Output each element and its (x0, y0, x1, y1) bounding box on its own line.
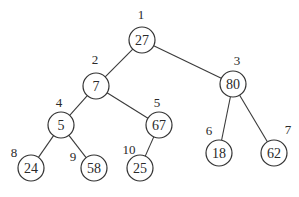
node-value: 80 (226, 77, 240, 92)
tree-edge (154, 46, 222, 79)
tree-edge (70, 96, 88, 116)
node-index-label: 9 (70, 149, 77, 164)
node-value: 18 (212, 146, 226, 161)
tree-node: 271 (129, 7, 155, 53)
tree-edge (38, 136, 53, 158)
tree-edge (107, 93, 148, 118)
node-index-label: 5 (154, 95, 161, 110)
node-index-label: 8 (11, 145, 18, 160)
node-value: 5 (58, 118, 65, 133)
node-index-label: 2 (92, 52, 99, 67)
node-index-label: 1 (138, 7, 145, 22)
node-index-label: 3 (234, 53, 241, 68)
node-value: 27 (135, 33, 149, 48)
node-value: 58 (87, 161, 101, 176)
node-index-label: 6 (206, 123, 213, 138)
tree-node: 589 (70, 149, 107, 181)
node-value: 7 (93, 79, 100, 94)
node-index-label: 4 (56, 95, 63, 110)
tree-edge (222, 97, 231, 141)
tree-node: 803 (220, 53, 246, 97)
tree-nodes: 27172803546751866272485892510 (11, 7, 292, 181)
tree-node: 186 (206, 123, 232, 166)
tree-node: 627 (261, 122, 292, 166)
tree-node: 72 (83, 52, 109, 99)
node-index-label: 10 (123, 142, 136, 157)
node-index-label: 7 (285, 122, 292, 137)
binary-tree-diagram: 27172803546751866272485892510 (0, 0, 299, 197)
node-value: 67 (152, 118, 166, 133)
tree-node: 54 (48, 95, 74, 138)
tree-edge (145, 137, 153, 156)
tree-edge (240, 95, 268, 142)
node-value: 62 (267, 146, 281, 161)
node-value: 24 (24, 161, 38, 176)
tree-node: 248 (11, 145, 44, 181)
node-value: 25 (133, 161, 147, 176)
tree-node: 675 (146, 95, 172, 138)
tree-edge (105, 49, 133, 77)
